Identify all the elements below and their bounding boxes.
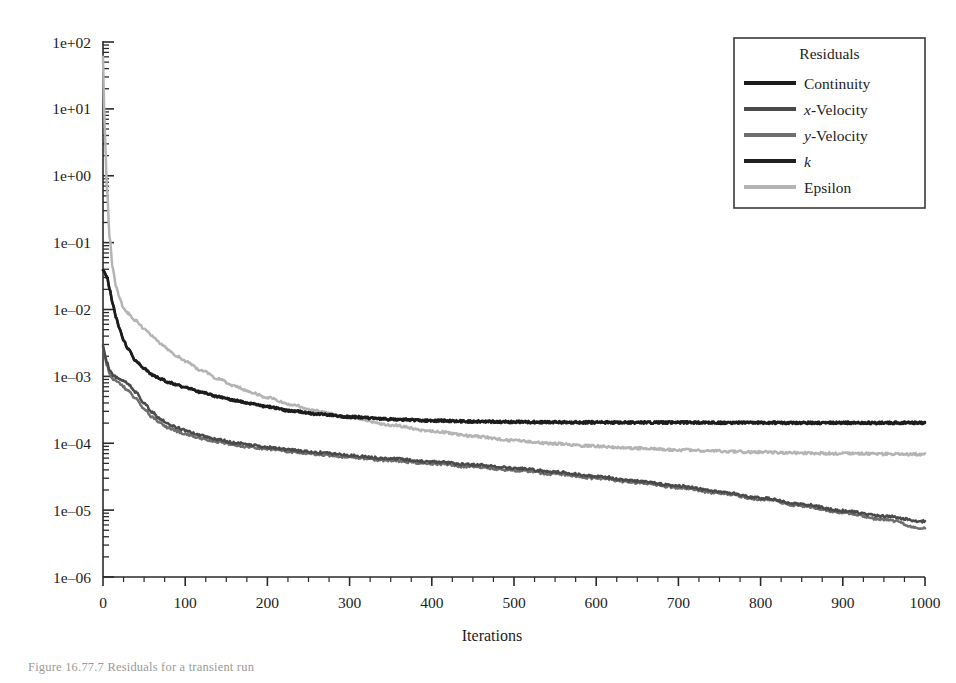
legend-title: Residuals — [799, 45, 859, 62]
y-tick-label: 1e+00 — [52, 167, 91, 184]
y-tick-label: 1e+01 — [52, 100, 91, 117]
y-tick-label: 1e–01 — [53, 234, 91, 251]
legend-label: Epsilon — [804, 179, 852, 196]
chart-legend: ResidualsContinuityx-Velocityy-Velocityk… — [734, 38, 925, 208]
y-tick-label: 1e–05 — [53, 502, 91, 519]
y-tick-label: 1e–04 — [53, 435, 91, 452]
x-tick-label: 900 — [831, 594, 855, 611]
y-tick-label: 1e–03 — [53, 368, 91, 385]
y-tick-label: 1e–02 — [53, 301, 91, 318]
x-tick-label: 1000 — [910, 594, 941, 611]
x-axis-title: Iterations — [462, 627, 522, 644]
x-tick-label: 300 — [338, 594, 362, 611]
x-tick-label: 500 — [502, 594, 526, 611]
x-tick-label: 700 — [667, 594, 691, 611]
x-tick-label: 600 — [585, 594, 609, 611]
legend-label: k — [804, 153, 812, 170]
figure-caption: Figure 16.77.7 Residuals for a transient… — [28, 660, 928, 675]
x-tick-label: 800 — [749, 594, 773, 611]
legend-label: Continuity — [804, 75, 871, 92]
x-tick-label: 200 — [256, 594, 280, 611]
x-tick-label: 0 — [99, 594, 107, 611]
legend-label: y-Velocity — [802, 127, 868, 144]
residuals-figure: 1e+021e+011e+001e–011e–021e–031e–041e–05… — [0, 0, 956, 683]
y-tick-label: 1e–06 — [53, 569, 91, 586]
legend-label: x-Velocity — [803, 101, 868, 118]
residuals-chart: 1e+021e+011e+001e–011e–021e–031e–041e–05… — [0, 0, 956, 683]
x-tick-label: 100 — [174, 594, 198, 611]
x-tick-label: 400 — [420, 594, 444, 611]
y-tick-label: 1e+02 — [52, 34, 91, 51]
